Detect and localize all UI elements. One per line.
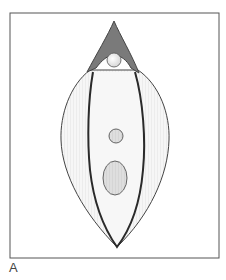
small-organelle	[109, 129, 123, 143]
apical-sphere	[107, 53, 121, 67]
large-organelle	[103, 161, 127, 195]
diagram-figure	[0, 0, 226, 280]
panel-label: A	[9, 260, 18, 275]
